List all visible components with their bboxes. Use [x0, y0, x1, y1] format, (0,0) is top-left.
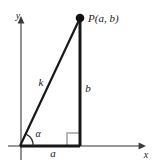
- side-a-label: a: [50, 147, 56, 159]
- side-k-segment: [20, 18, 80, 146]
- point-p-dot: [76, 14, 85, 23]
- angle-alpha-arc: [26, 134, 33, 146]
- side-k-label: k: [39, 76, 45, 88]
- right-angle-marker-icon: [67, 133, 80, 146]
- side-b-label: b: [85, 82, 91, 94]
- y-axis-label: y: [15, 10, 21, 21]
- angle-alpha-label: α: [35, 128, 41, 139]
- geometry-diagram: y x P(a, b) k b a α: [0, 0, 158, 167]
- figure-container: y x P(a, b) k b a α: [0, 0, 158, 167]
- point-p-label: P(a, b): [87, 12, 119, 25]
- x-axis-label: x: [143, 149, 149, 160]
